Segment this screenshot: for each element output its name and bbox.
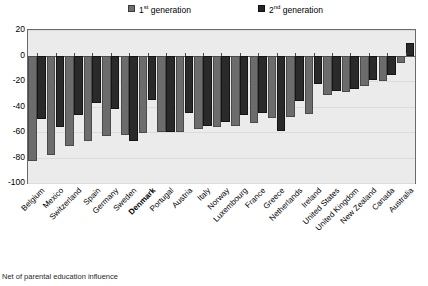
- bar-1st-generation: [121, 56, 129, 135]
- bar-group: [323, 30, 341, 183]
- bar-2nd-generation: [314, 56, 322, 84]
- bar-1st-generation: [268, 56, 276, 118]
- x-axis-tick: [314, 53, 315, 56]
- chart-caption: Net of parental education influence: [2, 272, 118, 281]
- bar-1st-generation: [323, 56, 331, 96]
- bar-1st-generation: [102, 56, 110, 136]
- chart-legend: 1st generation 2nd generation: [0, 2, 428, 18]
- bar-group: [304, 30, 322, 183]
- bar-1st-generation: [194, 56, 202, 130]
- x-axis-tick: [295, 53, 296, 56]
- x-axis-tick: [350, 53, 351, 56]
- bar-2nd-generation: [148, 56, 156, 101]
- bar-2nd-generation: [129, 56, 137, 141]
- x-axis-tick: [185, 53, 186, 56]
- bar-2nd-generation: [111, 56, 119, 110]
- x-axis-tick: [111, 53, 112, 56]
- x-axis-tick: [37, 53, 38, 56]
- x-axis-tick: [166, 53, 167, 56]
- bar-1st-generation: [28, 56, 36, 162]
- x-axis-tick: [56, 53, 57, 56]
- x-axis-tick: [406, 53, 407, 56]
- bar-2nd-generation: [166, 56, 174, 133]
- y-axis-tick-label: 20: [16, 25, 25, 34]
- bar-group: [102, 30, 120, 183]
- bar-2nd-generation: [295, 56, 303, 102]
- bar-1st-generation: [84, 56, 92, 141]
- bar-2nd-generation: [277, 56, 285, 131]
- x-axis: BelgiumMexicoSwitzerlandSpainGermanySwed…: [27, 186, 416, 264]
- y-axis-tick-label: -20: [13, 76, 25, 85]
- bar-1st-generation: [139, 56, 147, 134]
- bar-1st-generation: [250, 56, 258, 124]
- bar-1st-generation: [231, 56, 239, 126]
- x-axis-label: Belgium: [20, 186, 47, 213]
- bar-1st-generation: [342, 56, 350, 93]
- legend-label-2nd-generation: 2nd generation: [269, 2, 323, 15]
- bar-2nd-generation: [406, 43, 414, 56]
- x-axis-tick: [92, 53, 93, 56]
- bar-group: [360, 30, 378, 183]
- x-axis-tick: [369, 53, 370, 56]
- legend-item-2nd-generation: 2nd generation: [258, 2, 323, 15]
- legend-label-1st-generation: 1st generation: [139, 2, 191, 15]
- y-axis-tick-label: -100: [8, 178, 25, 187]
- bar-2nd-generation: [74, 56, 82, 116]
- bar-group: [83, 30, 101, 183]
- bar-group: [249, 30, 267, 183]
- bar-1st-generation: [176, 56, 184, 133]
- legend-swatch-1st-generation: [128, 5, 135, 12]
- bar-group: [157, 30, 175, 183]
- x-axis-tick: [221, 53, 222, 56]
- bar-2nd-generation: [37, 56, 45, 120]
- x-axis-tick: [277, 53, 278, 56]
- y-axis-tick-label: 0: [20, 50, 25, 59]
- bar-1st-generation: [47, 56, 55, 155]
- bar-group: [268, 30, 286, 183]
- x-axis-tick: [129, 53, 130, 56]
- bar-group: [194, 30, 212, 183]
- bar-group: [139, 30, 157, 183]
- bar-group: [65, 30, 83, 183]
- bar-2nd-generation: [258, 56, 266, 113]
- bar-1st-generation: [65, 56, 73, 147]
- bar-group: [286, 30, 304, 183]
- y-axis-tick-label: -40: [13, 101, 25, 110]
- y-axis-tick-label: -80: [13, 152, 25, 161]
- bar-2nd-generation: [350, 56, 358, 89]
- bar-2nd-generation: [92, 56, 100, 103]
- bar-2nd-generation: [185, 56, 193, 113]
- bar-2nd-generation: [387, 56, 395, 75]
- chart-figure: 1st generation 2nd generation 200-20-40-…: [0, 0, 428, 286]
- bar-group: [231, 30, 249, 183]
- bar-group: [28, 30, 46, 183]
- x-axis-tick: [258, 53, 259, 56]
- bar-group: [175, 30, 193, 183]
- x-axis-tick: [387, 53, 388, 56]
- bar-1st-generation: [397, 56, 405, 64]
- bar-1st-generation: [360, 56, 368, 87]
- y-axis: 200-20-40-60-80-100: [0, 29, 25, 184]
- x-axis-tick: [332, 53, 333, 56]
- gridline: [28, 183, 415, 184]
- bar-group: [46, 30, 64, 183]
- bar-group: [397, 30, 415, 183]
- legend-item-1st-generation: 1st generation: [128, 2, 191, 15]
- bar-1st-generation: [286, 56, 294, 117]
- bar-2nd-generation: [240, 56, 248, 116]
- bar-group: [212, 30, 230, 183]
- bar-group: [378, 30, 396, 183]
- bar-2nd-generation: [56, 56, 64, 127]
- bar-2nd-generation: [221, 56, 229, 122]
- bar-series-container: [28, 30, 415, 183]
- bar-2nd-generation: [332, 56, 340, 92]
- y-axis-tick-label: -60: [13, 127, 25, 136]
- bar-1st-generation: [379, 56, 387, 82]
- x-axis-tick: [203, 53, 204, 56]
- bar-1st-generation: [157, 56, 165, 133]
- legend-swatch-2nd-generation: [258, 5, 265, 12]
- bar-2nd-generation: [369, 56, 377, 80]
- bar-1st-generation: [213, 56, 221, 127]
- x-axis-tick: [74, 53, 75, 56]
- x-axis-tick: [240, 53, 241, 56]
